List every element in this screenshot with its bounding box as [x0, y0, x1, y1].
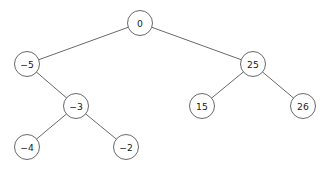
- tree-node-n25[interactable]: 25: [241, 52, 266, 77]
- tree-node-label: 0: [137, 18, 143, 29]
- tree-edge-n25-n26: [263, 72, 294, 98]
- tree-edge-n0-nm5: [39, 27, 129, 59]
- tree-node-n26[interactable]: 26: [291, 94, 316, 119]
- node-layer: 0−525−31526−4−2: [15, 11, 316, 160]
- tree-node-label: 25: [247, 59, 259, 70]
- binary-tree-figure: 0−525−31526−4−2: [0, 0, 329, 171]
- tree-node-nm4[interactable]: −4: [15, 135, 40, 160]
- tree-node-label: −5: [20, 59, 34, 70]
- tree-node-nm2[interactable]: −2: [114, 135, 139, 160]
- tree-node-label: −3: [69, 101, 83, 112]
- edge-layer: [36, 27, 293, 139]
- tree-canvas: 0−525−31526−4−2: [0, 0, 329, 171]
- tree-node-nm3[interactable]: −3: [64, 94, 89, 119]
- tree-edge-n25-n15: [212, 72, 244, 98]
- tree-node-n15[interactable]: 15: [190, 94, 215, 119]
- tree-node-n0[interactable]: 0: [128, 11, 153, 36]
- tree-node-label: −2: [119, 142, 133, 153]
- tree-edge-nm3-nm4: [37, 114, 67, 139]
- tree-node-label: 15: [196, 101, 208, 112]
- tree-node-label: 26: [297, 101, 309, 112]
- tree-edge-nm3-nm2: [86, 114, 117, 139]
- tree-node-label: −4: [20, 142, 34, 153]
- tree-node-nm5[interactable]: −5: [15, 52, 40, 77]
- tree-edge-nm5-nm3: [36, 72, 66, 98]
- tree-edge-n0-n25: [152, 27, 242, 59]
